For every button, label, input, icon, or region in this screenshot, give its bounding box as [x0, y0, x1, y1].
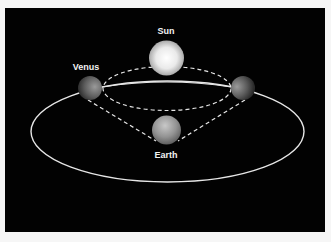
sun-icon [149, 41, 184, 76]
venus-label: Venus [73, 62, 100, 72]
earth-icon [152, 116, 181, 145]
sun-label: Sun [158, 26, 175, 36]
orbit-diagram [0, 0, 331, 242]
earth-label: Earth [154, 150, 177, 160]
venus-right-icon [231, 76, 255, 100]
sightline-left [88, 100, 156, 141]
sightline-right [178, 100, 245, 141]
venus-left-icon [78, 76, 102, 100]
venus-connector-line [102, 82, 231, 87]
